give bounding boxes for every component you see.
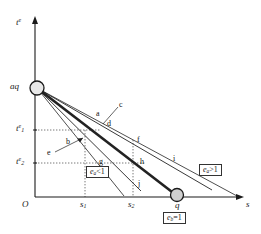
- x-axis-label: s: [246, 200, 250, 209]
- point-label-i: i: [173, 155, 175, 163]
- annotation-ea-less-than-1: ea<1: [86, 166, 109, 178]
- x-axis-arrowhead: [236, 194, 244, 200]
- point-label-c: c: [119, 101, 123, 109]
- point-label-d: d: [107, 120, 111, 128]
- annotation-ea-greater-than-1: ea>1: [199, 164, 222, 176]
- y-axis-arrowhead: [32, 16, 38, 24]
- y-tick-label-t2: te2: [16, 157, 24, 167]
- point-label-g: g: [99, 158, 103, 166]
- ray-to-q: [37, 88, 176, 195]
- origin-label: O: [22, 200, 29, 209]
- point-label-f: f: [137, 136, 140, 144]
- x-tick-label-s2: s2: [128, 200, 134, 210]
- marker-label-q: q: [175, 201, 180, 210]
- guide-lines: [35, 130, 146, 197]
- marker-label-aq: aq: [10, 82, 19, 91]
- x-tick-label-s1: s1: [80, 200, 86, 210]
- point-label-j: j: [138, 180, 140, 188]
- figure-canvas: te s O aq q te1 te2 s1 s2 a b c d e f g …: [0, 0, 261, 234]
- y-tick-label-t1: te1: [16, 124, 24, 134]
- ray-steep: [37, 88, 124, 196]
- y-axis-label: te: [16, 18, 21, 27]
- point-label-b: b: [66, 138, 70, 146]
- annotation-eb-equals-1: eb=1: [163, 212, 186, 224]
- marker-aq[interactable]: [30, 81, 44, 95]
- point-label-e: e: [47, 149, 51, 157]
- point-label-h: h: [140, 158, 144, 166]
- point-label-a: a: [96, 110, 100, 118]
